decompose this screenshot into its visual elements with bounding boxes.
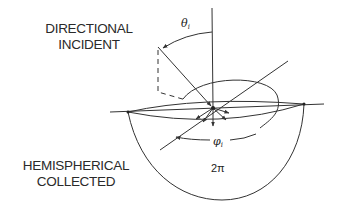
diagonal-axis	[160, 61, 288, 150]
solid-angle-label: 2π	[211, 162, 225, 174]
phi-label: φi	[213, 135, 223, 149]
theta-label: θi	[181, 17, 190, 31]
rim-point-right	[303, 103, 306, 106]
phi-arc-right	[230, 134, 256, 140]
normal-axis	[212, 8, 213, 108]
incident-projection-dashed	[158, 50, 186, 100]
rim-point-left	[127, 111, 130, 114]
geometry-diagram: θi φi 2π	[0, 0, 339, 214]
scattering-lobe	[183, 80, 279, 128]
hemisphere-rim-lower	[128, 104, 304, 119]
center-point	[211, 106, 215, 110]
phi-arc-left	[176, 137, 210, 140]
theta-arc	[163, 32, 212, 48]
scattered-rays	[196, 108, 229, 126]
hemisphere-bowl	[128, 104, 304, 200]
